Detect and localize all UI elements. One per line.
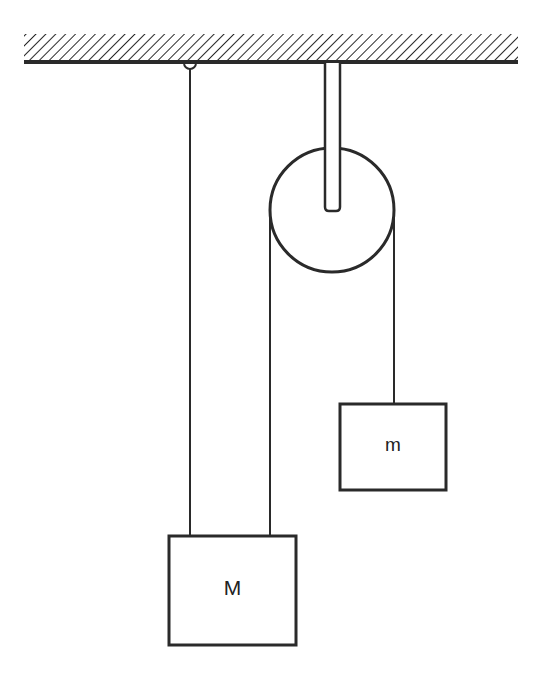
pulley-rod [325,63,340,211]
ceiling [24,34,518,62]
block-m-label: m [340,434,446,456]
block-M-label: M [169,576,296,600]
pulley-diagram: m M [0,0,537,684]
